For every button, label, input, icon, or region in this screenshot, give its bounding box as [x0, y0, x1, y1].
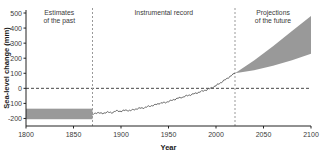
region-label-estimates-of-the-past-line2: of the past [43, 17, 75, 25]
instrumental-record-line [93, 73, 236, 114]
y-tick-label: 500 [10, 10, 22, 17]
y-axis-title: Sea-level change (mm) [2, 27, 11, 109]
x-axis-title: Year [161, 143, 177, 152]
region-label-projections-of-the-future-line2: of the future [255, 17, 291, 24]
sea-level-change-chart: -200-10001002003004005001800185019001950… [0, 0, 327, 166]
x-tick-label: 1900 [113, 131, 129, 138]
x-tick-label: 1850 [66, 131, 82, 138]
region-label-projections-of-the-future: Projections [256, 9, 290, 17]
y-tick-label: 0 [18, 85, 22, 92]
y-tick-label: 400 [10, 25, 22, 32]
y-tick-label: 300 [10, 40, 22, 47]
y-tick-label: 100 [10, 70, 22, 77]
projection-band [235, 16, 311, 73]
x-tick-label: 2000 [208, 131, 224, 138]
chart-canvas: -200-10001002003004005001800185019001950… [0, 0, 327, 166]
region-label-estimates-of-the-past: Estimates [44, 9, 74, 16]
x-tick-label: 1950 [161, 131, 177, 138]
x-tick-label: 2050 [256, 131, 272, 138]
x-tick-label: 2100 [303, 131, 319, 138]
y-tick-label: 200 [10, 55, 22, 62]
x-tick-label: 1800 [18, 131, 34, 138]
y-tick-label: -200 [8, 115, 22, 122]
paleo-estimate-band [26, 109, 93, 120]
region-label-instrumental-record: Instrumental record [134, 9, 193, 16]
